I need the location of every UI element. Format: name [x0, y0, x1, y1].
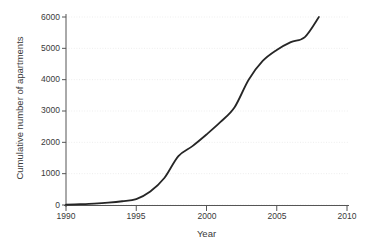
axis-tickmarks — [62, 17, 347, 211]
data-series-line — [66, 17, 319, 205]
chart-figure: Cumulative number of apartments 6000 500… — [0, 0, 369, 249]
plot-area — [0, 0, 369, 249]
gridlines — [66, 17, 349, 205]
